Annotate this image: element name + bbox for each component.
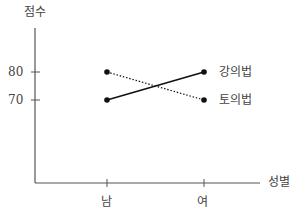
data-point [201, 97, 207, 103]
legend-discussion: 토의법 [219, 94, 252, 106]
x-tick-label-male: 남 [101, 196, 112, 208]
data-point [201, 69, 207, 75]
data-point [104, 69, 110, 75]
chart-canvas [0, 0, 298, 224]
interaction-line-chart: 점수 80 70 강의법 토의법 남 여 성별 [0, 0, 298, 224]
legend-lecture: 강의법 [219, 66, 252, 78]
y-axis-label: 점수 [24, 6, 46, 18]
x-axis-label: 성별 [268, 176, 290, 188]
y-tick-label-80: 80 [8, 66, 23, 78]
x-tick-label-female: 여 [197, 196, 208, 208]
data-point [104, 97, 110, 103]
y-tick-label-70: 70 [8, 94, 23, 106]
